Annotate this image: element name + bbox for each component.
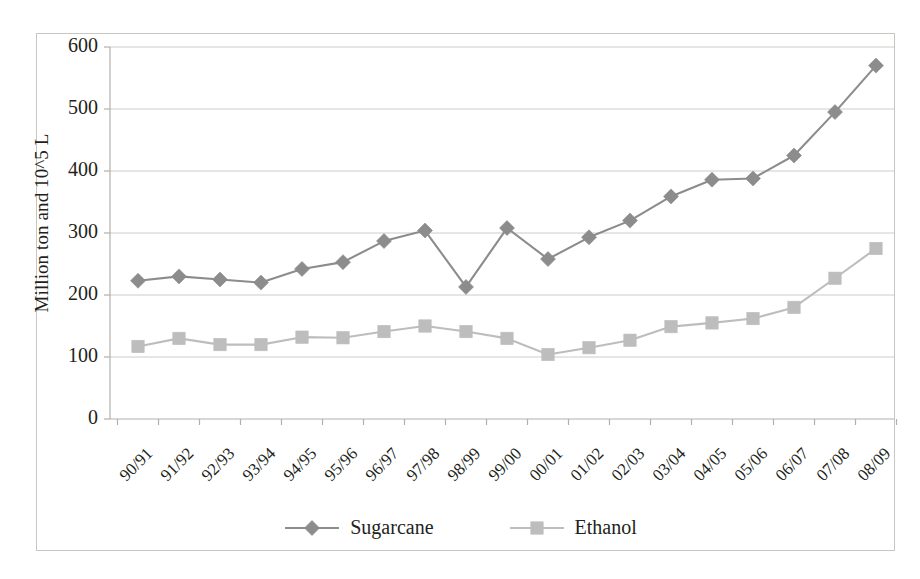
- data-point: [460, 325, 472, 337]
- data-point: [705, 172, 720, 187]
- data-point: [336, 255, 351, 270]
- data-point: [255, 338, 267, 350]
- data-point: [665, 320, 677, 332]
- data-point: [213, 272, 228, 287]
- legend-entry-ethanol[interactable]: Ethanol: [508, 516, 637, 539]
- series-sugarcane: [131, 58, 884, 294]
- data-point: [419, 320, 431, 332]
- data-point: [664, 189, 679, 204]
- legend-label: Ethanol: [575, 516, 637, 539]
- square-marker-icon: [508, 518, 566, 538]
- data-point: [706, 317, 718, 329]
- data-point: [172, 269, 187, 284]
- data-point: [254, 275, 269, 290]
- y-axis-tick-marks: [104, 47, 110, 419]
- data-point: [459, 279, 474, 294]
- data-point: [623, 213, 638, 228]
- data-point: [501, 332, 513, 344]
- data-point: [870, 242, 882, 254]
- diamond-marker-icon: [283, 518, 341, 538]
- data-point: [624, 334, 636, 346]
- data-point: [788, 301, 800, 313]
- data-point: [295, 261, 310, 276]
- chart-plot-area: [0, 0, 920, 579]
- data-point: [377, 234, 392, 249]
- gridlines: [110, 47, 894, 357]
- data-point: [418, 223, 433, 238]
- data-point: [746, 171, 761, 186]
- data-point: [131, 273, 146, 288]
- data-point: [747, 312, 759, 324]
- chart-figure: Million ton and 10^5 L 01002003004005006…: [0, 0, 920, 579]
- chart-legend: SugarcaneEthanol: [0, 516, 920, 539]
- data-point: [173, 332, 185, 344]
- data-point: [296, 331, 308, 343]
- data-series-layer: [131, 58, 884, 361]
- series-ethanol: [132, 242, 882, 360]
- legend-label: Sugarcane: [350, 516, 433, 539]
- data-point: [542, 348, 554, 360]
- data-point: [582, 230, 597, 245]
- data-point: [214, 338, 226, 350]
- x-axis-tick-marks: [118, 419, 897, 425]
- data-point: [337, 332, 349, 344]
- data-point: [378, 325, 390, 337]
- data-point: [132, 340, 144, 352]
- data-point: [583, 342, 595, 354]
- legend-entry-sugarcane[interactable]: Sugarcane: [283, 516, 433, 539]
- data-point: [829, 272, 841, 284]
